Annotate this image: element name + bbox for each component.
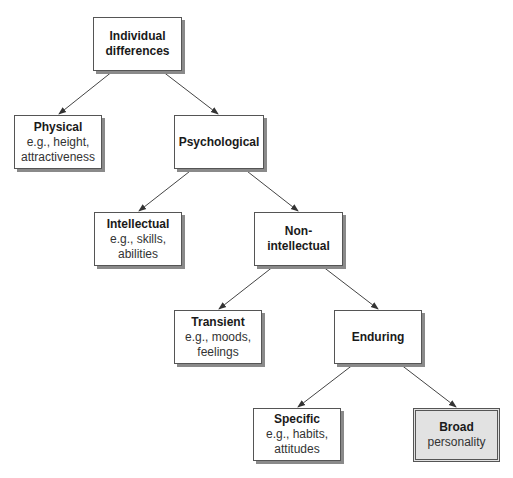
node-example-line2: abilities (118, 247, 158, 262)
node-physical: Physical e.g., height, attractiveness (14, 115, 102, 169)
node-non-intellectual: Non-intellectual (254, 212, 343, 266)
node-title: Non-intellectual (255, 224, 342, 254)
node-title: Enduring (352, 330, 405, 345)
edge-nonintellectual-enduring (322, 266, 378, 309)
edge-enduring-broad (400, 364, 456, 407)
edge-psychological-nonintellectual (243, 168, 298, 211)
node-title: Broad (439, 420, 474, 435)
node-title-line2: differences (105, 44, 169, 59)
edge-root-psychological (162, 71, 218, 114)
node-example-line2: attractiveness (21, 150, 95, 165)
node-transient: Transient e.g., moods, feelings (174, 310, 262, 364)
node-title: Intellectual (107, 217, 170, 232)
node-title: Psychological (179, 135, 260, 150)
node-individual-differences: Individual differences (93, 17, 182, 71)
node-subtitle: personality (427, 435, 485, 450)
node-example-line2: attitudes (274, 442, 319, 457)
node-example: e.g., skills, (110, 232, 166, 247)
node-broad-personality: Broad personality (413, 408, 500, 462)
edge-psychological-intellectual (139, 168, 194, 211)
node-enduring: Enduring (334, 310, 422, 364)
node-title: Individual (109, 29, 165, 44)
node-example: e.g., habits, (266, 427, 328, 442)
node-specific: Specific e.g., habits, attitudes (253, 408, 341, 461)
individual-differences-tree: Individual differences Physical e.g., he… (0, 0, 513, 478)
edge-root-physical (59, 71, 113, 114)
node-psychological: Psychological (174, 115, 264, 169)
edge-nonintellectual-transient (219, 266, 274, 309)
node-title: Physical (34, 120, 83, 135)
node-example: e.g., height, (27, 135, 90, 150)
node-example-line2: feelings (197, 345, 238, 360)
node-example: e.g., moods, (185, 330, 251, 345)
node-intellectual: Intellectual e.g., skills, abilities (94, 212, 182, 266)
node-title: Transient (191, 315, 244, 330)
node-title: Specific (274, 412, 320, 427)
edge-enduring-specific (298, 364, 354, 407)
